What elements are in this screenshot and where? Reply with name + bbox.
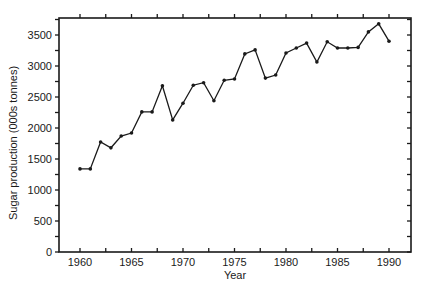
x-tick-label: 1970 [171,256,195,268]
data-point-marker [264,76,268,80]
series-line [80,24,389,169]
y-tick-label: 2500 [28,91,52,103]
y-tick-label: 2000 [28,122,52,134]
data-point-marker [181,101,185,105]
y-axis-ticks: 0500100015002000250030003500 [28,20,411,259]
data-series [78,22,391,171]
data-point-marker [295,46,299,50]
data-point-marker [161,84,165,88]
data-point-marker [192,83,196,87]
line-chart: 1960196519701975198019851990 05001000150… [0,0,426,291]
data-point-marker [346,46,350,50]
data-point-marker [284,51,288,55]
y-axis-title: Sugar production (000s tonnes) [7,66,19,220]
data-point-marker [233,77,237,81]
data-point-marker [202,81,206,85]
data-point-marker [212,99,216,103]
data-point-marker [89,167,93,171]
y-tick-label: 0 [46,246,52,258]
data-point-marker [356,46,360,50]
y-tick-label: 1000 [28,184,52,196]
y-tick-label: 3000 [28,60,52,72]
data-point-marker [315,60,319,64]
x-tick-label: 1980 [274,256,298,268]
data-point-marker [253,48,257,52]
data-point-marker [140,110,144,114]
data-point-marker [130,131,134,135]
y-tick-label: 500 [34,215,52,227]
x-tick-label: 1975 [222,256,246,268]
data-point-marker [150,110,154,114]
data-point-marker [222,78,226,82]
data-point-marker [305,41,309,45]
data-point-marker [78,167,82,171]
data-point-marker [99,140,103,144]
data-point-marker [387,39,391,43]
data-point-marker [274,73,278,77]
x-tick-label: 1985 [325,256,349,268]
data-point-marker [336,46,340,50]
y-tick-label: 3500 [28,29,52,41]
data-point-marker [367,30,371,34]
data-point-marker [109,146,113,150]
data-point-marker [119,134,123,138]
x-tick-label: 1990 [377,256,401,268]
data-point-marker [243,52,247,56]
x-tick-label: 1960 [68,256,92,268]
x-tick-label: 1965 [119,256,143,268]
data-point-marker [171,118,175,122]
plot-frame [59,18,411,252]
y-tick-label: 1500 [28,153,52,165]
plot-border [59,18,411,252]
x-axis-title: Year [224,269,247,281]
x-axis-ticks: 1960196519701975198019851990 [68,14,401,268]
data-point-marker [325,40,329,44]
data-point-marker [377,22,381,26]
